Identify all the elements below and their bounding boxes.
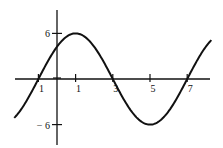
y-tick-label: − 6 xyxy=(37,120,50,131)
y-tick-label: 6 xyxy=(45,28,50,39)
sine-graph: 11357 6− 6 xyxy=(0,0,223,148)
x-tick-label: 1 xyxy=(76,83,81,94)
x-tick-label: 1 xyxy=(39,83,44,94)
x-tick-label: 7 xyxy=(188,83,193,94)
x-tick-label: 5 xyxy=(151,83,156,94)
